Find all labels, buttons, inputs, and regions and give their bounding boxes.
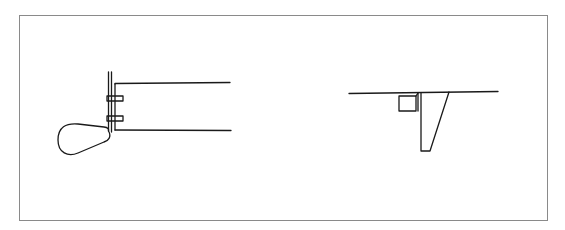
rudder-blade (58, 124, 110, 155)
hull-line (349, 92, 498, 94)
tapered-keel (421, 92, 449, 151)
diagram-frame (20, 16, 548, 221)
side-view-figure (58, 72, 231, 154)
small-box (399, 96, 416, 111)
diagram-canvas (0, 0, 565, 230)
hull-bottom-line (115, 130, 231, 131)
hull-top-line (115, 83, 230, 85)
end-view-figure (349, 92, 498, 152)
